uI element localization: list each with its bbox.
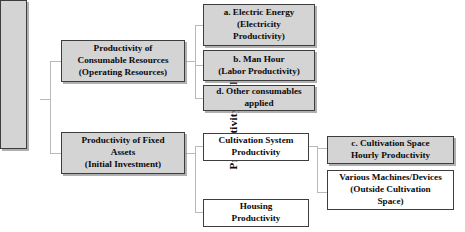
connector-to-housing [195,212,203,213]
box-other-consumables-line2: applied [207,98,311,110]
connector-consumable-spine [195,25,196,98]
box-various-machines-devices[interactable]: Various Machines/Devices (Outside Cultiv… [327,170,454,210]
box-various-machines-line2: (Outside Cultivation [331,184,450,196]
box-cultivation-space-hourly-line1: c. Cultivation Space [331,138,450,150]
box-electric-energy-line2: (Electricity [207,19,311,31]
box-fixed-assets-line1: Productivity of Fixed [65,135,181,147]
connector-to-man-hour [195,65,203,66]
connector-consumable-stub [185,61,195,62]
connector-root-stub [40,99,50,100]
box-housing-line1: Housing [207,201,305,213]
box-consumable-resources-line1: Productivity of [65,43,181,55]
box-various-machines-line3: Space) [331,196,450,208]
connector-fixed-spine [195,146,196,212]
box-housing-line2: Productivity [207,213,305,225]
box-electric-energy-line1: a. Electric Energy [207,7,311,19]
connector-to-other-consumables [195,98,203,99]
connector-root-spine [50,61,51,153]
box-cultivation-system-line1: Cultivation System [207,135,305,147]
box-cultivation-space-hourly-line2: Hourly Productivity [331,150,450,162]
connector-to-various-machines [317,192,327,193]
box-electric-energy-line3: Productivity) [207,31,311,43]
box-various-machines-line1: Various Machines/Devices [331,172,450,184]
box-fixed-assets-line2: Assets [65,147,181,159]
productivity-tree-diagram: Productivity of PFAL Productivity of Con… [0,0,465,232]
box-fixed-assets-line3: (Initial Investment) [65,159,181,171]
box-electric-energy[interactable]: a. Electric Energy (Electricity Producti… [203,4,315,46]
connector-to-cultivation-system [195,146,203,147]
connector-root-to-fixed [50,153,61,154]
box-other-consumables-line1: d. Other consumables [207,86,311,98]
connector-cultivation-spine [317,146,318,192]
root-box-productivity-of-pfal[interactable]: Productivity of PFAL [0,0,27,149]
box-cultivation-system[interactable]: Cultivation System Productivity [203,133,309,161]
connector-cultivation-stub [309,146,317,147]
connector-fixed-stub [185,153,195,154]
box-man-hour-line1: b. Man Hour [207,54,311,66]
box-cultivation-system-line2: Productivity [207,147,305,159]
box-consumable-resources[interactable]: Productivity of Consumable Resources (Op… [61,40,185,82]
connector-to-cultivation-space-hourly [317,148,327,149]
connector-to-electric-energy [195,25,203,26]
box-consumable-resources-line3: (Operating Resources) [65,67,181,79]
connector-root-to-consumable [50,61,61,62]
box-housing[interactable]: Housing Productivity [203,199,309,227]
box-cultivation-space-hourly[interactable]: c. Cultivation Space Hourly Productivity [327,136,454,164]
box-fixed-assets[interactable]: Productivity of Fixed Assets (Initial In… [61,132,185,174]
box-man-hour-line2: (Labor Productivity) [207,66,311,78]
box-consumable-resources-line2: Consumable Resources [65,55,181,67]
box-man-hour[interactable]: b. Man Hour (Labor Productivity) [203,50,315,81]
box-other-consumables[interactable]: d. Other consumables applied [203,85,315,111]
